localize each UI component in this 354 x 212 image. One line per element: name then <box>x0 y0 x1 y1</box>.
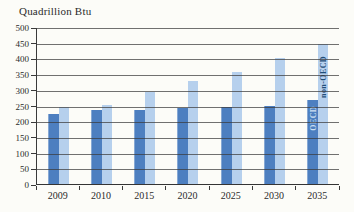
series-label-oecd: OECD <box>308 106 317 131</box>
gridline <box>36 91 339 92</box>
bar-non-oecd-2010 <box>102 105 112 185</box>
y-tick-label: 50 <box>1 164 29 174</box>
y-tick-label: 350 <box>1 70 29 80</box>
y-tick-label: 300 <box>1 86 29 96</box>
bar-non-oecd-2009 <box>59 107 69 186</box>
bar-non-oecd-2025 <box>232 72 242 185</box>
gridline <box>36 169 339 170</box>
x-axis-line <box>36 184 339 185</box>
y-tick-label: 250 <box>1 102 29 112</box>
y-tick-label: 150 <box>1 133 29 143</box>
x-tick-label-2035: 2035 <box>296 190 339 201</box>
figure-world-energy-consumption-chart: Quadrillion Btu 500450400350300250200150… <box>0 0 354 212</box>
y-tick-label: 400 <box>1 54 29 64</box>
x-tick-label-2015: 2015 <box>123 190 166 201</box>
x-tick-label-2030: 2030 <box>252 190 295 201</box>
bar-oecd-2015 <box>134 110 145 185</box>
gridline <box>36 28 339 29</box>
y-tick-label: 200 <box>1 117 29 127</box>
y-tick-label: 100 <box>1 149 29 159</box>
y-axis-labels: 500450400350300250200150100500 <box>0 28 30 185</box>
gridline <box>36 44 339 45</box>
x-tick-label-2020: 2020 <box>166 190 209 201</box>
y-axis-line <box>36 28 37 185</box>
bar-non-oecd-2035: non-OECD <box>318 44 328 185</box>
bar-oecd-2020 <box>177 108 188 185</box>
bar-oecd-2009 <box>48 114 59 185</box>
x-axis-labels: 2009201020152020202520302035 <box>36 190 339 201</box>
y-tick-label: 450 <box>1 39 29 49</box>
plot-area: OECDnon-OECD <box>36 28 339 185</box>
bar-oecd-2025 <box>221 107 232 186</box>
gridline <box>36 59 339 60</box>
bar-oecd-2010 <box>91 110 102 185</box>
gridline <box>36 122 339 123</box>
gridline <box>36 154 339 155</box>
y-tick-label: 0 <box>1 180 29 190</box>
x-tick-label-2010: 2010 <box>79 190 122 201</box>
x-tick-label-2025: 2025 <box>209 190 252 201</box>
bar-oecd-2030 <box>264 106 275 185</box>
gridline <box>36 75 339 76</box>
gridline <box>36 138 339 139</box>
x-tick-label-2009: 2009 <box>36 190 79 201</box>
y-axis-unit-label: Quadrillion Btu <box>19 5 91 17</box>
bar-oecd-2035: OECD <box>307 100 318 185</box>
y-tick-label: 500 <box>1 23 29 33</box>
gridline <box>36 107 339 108</box>
